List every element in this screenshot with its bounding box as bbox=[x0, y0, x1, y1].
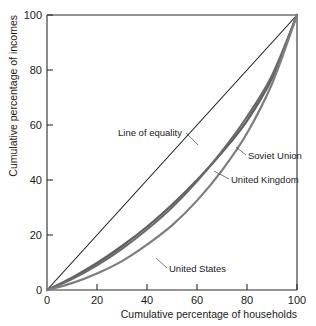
leader-line-of-equality bbox=[186, 133, 198, 145]
x-axis-ticks bbox=[97, 284, 297, 290]
y-axis-title: Cumulative percentage of incomes bbox=[7, 15, 19, 177]
y-axis-ticks bbox=[47, 15, 53, 235]
y-tick-label-80: 80 bbox=[30, 64, 42, 76]
series-annotations: Line of equality Soviet Union United Kin… bbox=[118, 127, 302, 274]
leader-soviet-union bbox=[236, 147, 246, 155]
y-axis-tick-labels: 100 80 60 40 20 0 bbox=[24, 9, 42, 296]
x-tick-label-60: 60 bbox=[191, 294, 203, 306]
x-tick-label-20: 20 bbox=[91, 294, 103, 306]
x-tick-label-40: 40 bbox=[141, 294, 153, 306]
lorenz-curve-figure: 100 80 60 40 20 0 0 20 40 60 80 100 Cumu… bbox=[0, 0, 316, 326]
x-axis-title: Cumulative percentage of households bbox=[121, 308, 297, 320]
x-tick-label-0: 0 bbox=[44, 294, 50, 306]
annotation-soviet-union: Soviet Union bbox=[248, 150, 302, 161]
annotation-united-kingdom: United Kingdom bbox=[231, 174, 299, 185]
y-tick-label-100: 100 bbox=[24, 9, 42, 21]
y-tick-label-0: 0 bbox=[36, 284, 42, 296]
annotation-line-of-equality: Line of equality bbox=[118, 127, 182, 138]
y-tick-label-20: 20 bbox=[30, 229, 42, 241]
y-tick-label-40: 40 bbox=[30, 174, 42, 186]
x-tick-label-80: 80 bbox=[241, 294, 253, 306]
x-axis-tick-labels: 0 20 40 60 80 100 bbox=[44, 294, 306, 306]
annotation-leaders bbox=[156, 133, 246, 268]
leader-united-states bbox=[156, 258, 167, 268]
x-tick-label-100: 100 bbox=[288, 294, 306, 306]
y-tick-label-60: 60 bbox=[30, 119, 42, 131]
annotation-united-states: United States bbox=[169, 263, 226, 274]
chart-canvas: 100 80 60 40 20 0 0 20 40 60 80 100 Cumu… bbox=[0, 0, 316, 326]
